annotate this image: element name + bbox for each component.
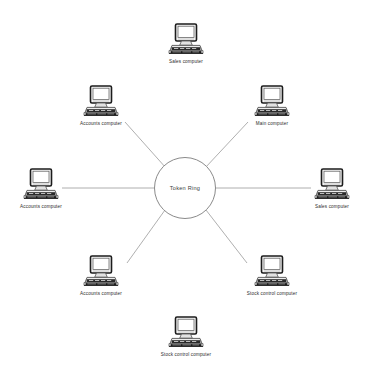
token-ring-hub-label: Token Ring	[170, 185, 201, 191]
computer-node-label: Main computer	[256, 121, 288, 126]
desktop-computer-icon	[166, 23, 206, 57]
computer-node-label: Stock control computer	[161, 352, 211, 357]
computer-node-label: Sales computer	[315, 204, 349, 209]
network-diagram: Token Ring Sales computerAccounts comput…	[0, 0, 369, 374]
computer-node[interactable]: Accounts computer	[10, 168, 72, 209]
token-ring-hub[interactable]: Token Ring	[154, 157, 216, 219]
desktop-computer-icon	[252, 85, 292, 119]
computer-node-label: Stock control computer	[247, 291, 297, 296]
desktop-computer-icon	[81, 85, 121, 119]
computer-node[interactable]: Sales computer	[301, 168, 363, 209]
computer-node[interactable]: Stock control computer	[241, 255, 303, 296]
computer-node[interactable]: Sales computer	[155, 23, 217, 64]
computer-node-label: Accounts computer	[20, 204, 62, 209]
computer-node[interactable]: Accounts computer	[70, 255, 132, 296]
computer-node-label: Accounts computer	[80, 291, 122, 296]
desktop-computer-icon	[81, 255, 121, 289]
computer-node-label: Accounts computer	[80, 121, 122, 126]
desktop-computer-icon	[21, 168, 61, 202]
computer-node[interactable]: Accounts computer	[70, 85, 132, 126]
desktop-computer-icon	[252, 255, 292, 289]
desktop-computer-icon	[166, 316, 206, 350]
computer-node[interactable]: Main computer	[241, 85, 303, 126]
desktop-computer-icon	[312, 168, 352, 202]
computer-node-label: Sales computer	[169, 59, 203, 64]
computer-node[interactable]: Stock control computer	[155, 316, 217, 357]
nodes-layer: Token Ring Sales computerAccounts comput…	[0, 0, 369, 374]
